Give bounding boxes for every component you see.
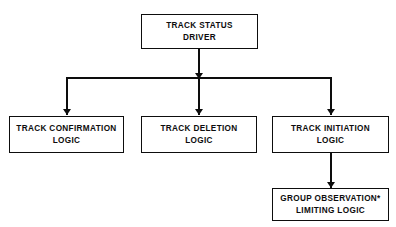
node-track-deletion-logic: TRACK DELETION LOGIC [141,116,257,153]
node-track-status-driver-line-1: TRACK STATUS [166,20,233,31]
node-track-deletion-logic-line-1: TRACK DELETION [160,123,237,134]
node-track-confirmation-logic-line-2: LOGIC [53,135,81,146]
node-track-initiation-logic-line-2: LOGIC [317,135,345,146]
node-track-initiation-logic-line-1: TRACK INITIATION [291,123,370,134]
node-track-status-driver: TRACK STATUS DRIVER [141,14,258,49]
node-track-confirmation-logic: TRACK CONFIRMATION LOGIC [9,116,124,153]
arrowhead-track-deletion-icon [195,109,203,115]
node-group-observation-limiting-logic-line-2: LIMITING LOGIC [296,205,365,216]
flowchart-diagram: TRACK STATUS DRIVER TRACK CONFIRMATION L… [0,0,396,227]
node-group-observation-limiting-logic-line-1: GROUP OBSERVATION* [280,193,380,204]
node-group-observation-limiting-logic: GROUP OBSERVATION* LIMITING LOGIC [272,188,389,221]
arrowhead-track-confirmation-icon [63,109,71,115]
node-track-initiation-logic: TRACK INITIATION LOGIC [272,116,389,153]
arrowhead-track-initiation-icon [327,109,335,115]
node-track-status-driver-line-2: DRIVER [183,32,216,43]
node-track-deletion-logic-line-2: LOGIC [185,135,213,146]
node-track-confirmation-logic-line-1: TRACK CONFIRMATION [16,123,116,134]
